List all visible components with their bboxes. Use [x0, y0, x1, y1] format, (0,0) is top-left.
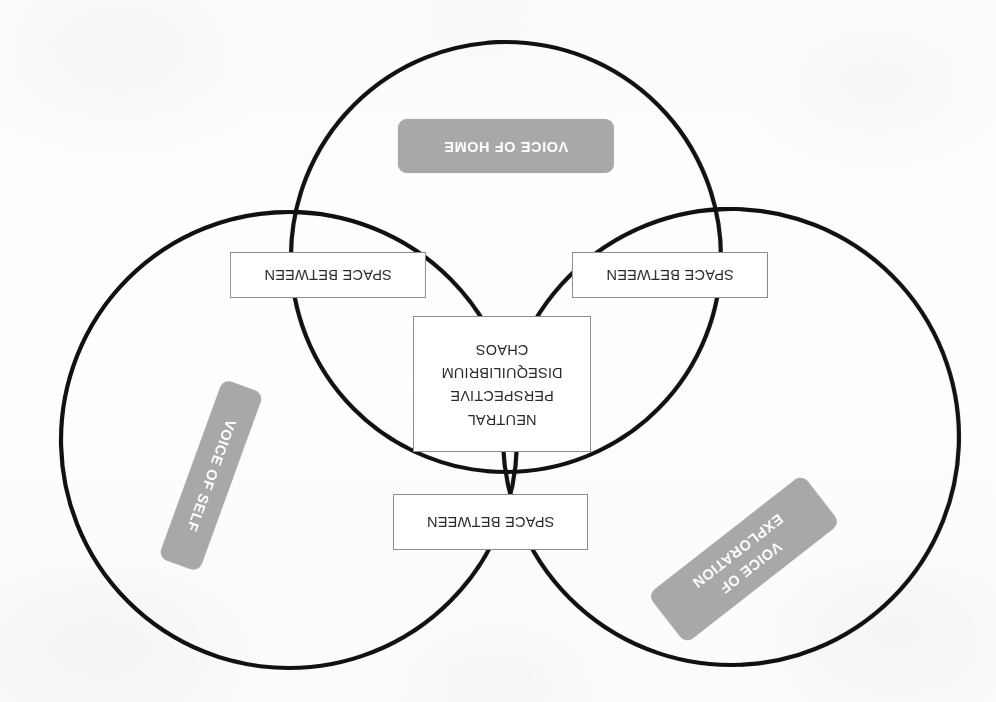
center-intersection-line-1: NEUTRAL: [467, 407, 536, 430]
space-between-box-top-label: SPACE BETWEEN: [427, 514, 555, 530]
space-between-box-left: SPACE BETWEEN: [572, 252, 768, 298]
space-between-box-top: SPACE BETWEEN: [393, 494, 588, 550]
space-between-box-right-label: SPACE BETWEEN: [264, 267, 392, 283]
center-intersection-line-4: CHAOS: [476, 337, 529, 360]
center-intersection-box: NEUTRAL PERSPECTIVE DISEQUILIBRIUM CHAOS: [413, 316, 591, 452]
venn-diagram-page: VOICE OF EXPLORATION VOICE OF SELF VOICE…: [0, 0, 996, 702]
pill-voice-of-home: VOICE OF HOME: [398, 119, 614, 173]
center-intersection-line-3: DISEQUILIBRIUM: [441, 361, 562, 384]
space-between-box-left-label: SPACE BETWEEN: [606, 267, 734, 283]
center-intersection-line-2: PERSPECTIVE: [450, 384, 554, 407]
pill-voice-of-home-line-1: VOICE OF HOME: [444, 136, 569, 157]
space-between-box-right: SPACE BETWEEN: [230, 252, 426, 298]
venn-diagram-canvas: VOICE OF EXPLORATION VOICE OF SELF VOICE…: [0, 0, 996, 702]
